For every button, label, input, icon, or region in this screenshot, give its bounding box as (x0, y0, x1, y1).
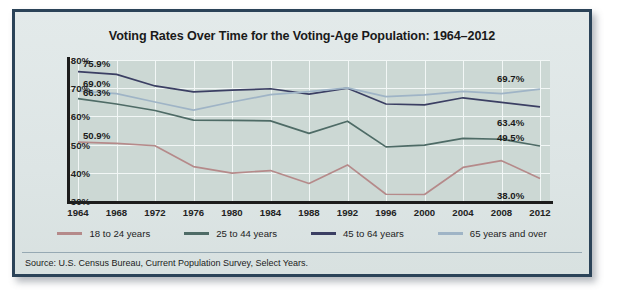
y-axis-tick-label: 40% (44, 167, 90, 178)
data-label-end: 49.5% (497, 132, 524, 143)
x-axis-tick-label: 1964 (56, 207, 100, 218)
chart-card: Voting Rates Over Time for the Voting-Ag… (12, 9, 592, 277)
chart-title: Voting Rates Over Time for the Voting-Ag… (15, 29, 589, 43)
chart-legend: 18 to 24 years25 to 44 years45 to 64 yea… (15, 228, 589, 239)
x-axis-tick-label: 1996 (364, 207, 408, 218)
series-lines (68, 60, 550, 201)
legend-swatch-icon (57, 232, 82, 234)
x-axis-tick-label: 1972 (133, 207, 177, 218)
data-label-end: 63.4% (497, 117, 524, 128)
x-axis-tick-label: 1988 (287, 207, 331, 218)
legend-label: 45 to 64 years (343, 228, 404, 239)
data-label-end: 69.7% (497, 73, 524, 84)
x-axis-tick-label: 1976 (172, 207, 216, 218)
plot-area-wrapper: 30%40%50%60%70%80%1964196819721976198019… (15, 55, 589, 220)
data-label-start: 50.9% (83, 130, 110, 141)
data-label-end: 38.0% (497, 190, 524, 201)
y-axis-tick-label: 30% (44, 196, 90, 207)
x-axis-tick-label: 2008 (480, 207, 524, 218)
x-axis-line (67, 201, 553, 204)
x-axis-tick-label: 1968 (95, 207, 139, 218)
legend-item[interactable]: 45 to 64 years (311, 228, 404, 239)
x-axis-tick-label: 1980 (210, 207, 254, 218)
x-axis-tick-label: 1992 (326, 207, 370, 218)
legend-swatch-icon (311, 232, 336, 234)
data-label-start: 69.0% (83, 78, 110, 89)
x-axis-tick-label: 2012 (518, 207, 562, 218)
y-axis-tick-label: 60% (44, 111, 90, 122)
x-axis-tick-label: 2004 (441, 207, 485, 218)
source-divider (22, 252, 582, 253)
data-label-start: 75.9% (83, 58, 110, 69)
line-series (78, 99, 540, 147)
legend-label: 25 to 44 years (216, 228, 277, 239)
legend-swatch-icon (184, 232, 209, 234)
source-note: Source: U.S. Census Bureau, Current Popu… (25, 258, 308, 268)
x-axis-tick-label: 1984 (249, 207, 293, 218)
legend-item[interactable]: 65 years and over (438, 228, 547, 239)
legend-item[interactable]: 18 to 24 years (57, 228, 150, 239)
legend-swatch-icon (438, 232, 463, 234)
line-series (78, 142, 540, 194)
legend-label: 65 years and over (470, 228, 547, 239)
legend-item[interactable]: 25 to 44 years (184, 228, 277, 239)
legend-label: 18 to 24 years (89, 228, 150, 239)
line-series (78, 72, 540, 107)
x-axis-tick-label: 2000 (403, 207, 447, 218)
